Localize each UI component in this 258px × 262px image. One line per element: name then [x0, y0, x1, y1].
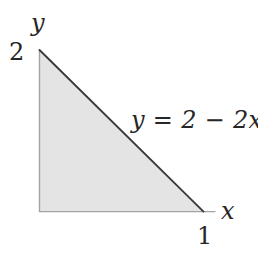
equation-annotation-label: y = 2 − 2x — [131, 108, 258, 132]
y-axis-tick-label-2: 2 — [9, 40, 24, 64]
x-axis-tick-label-1: 1 — [197, 224, 212, 248]
figure-canvas: y 2 x 1 y = 2 − 2x — [0, 0, 258, 262]
x-axis-label: x — [221, 199, 235, 223]
y-axis-label: y — [31, 11, 45, 35]
